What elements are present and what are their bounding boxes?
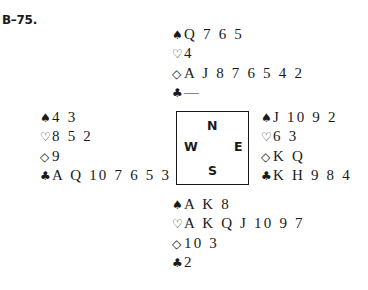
diamond-icon: ◇ [261,148,273,167]
south-hearts: A K Q J 10 9 7 [184,215,305,231]
compass-west: W [184,139,198,154]
south-diamonds: 10 3 [184,235,219,251]
diamond-icon: ◇ [40,148,52,167]
diamond-icon: ◇ [172,235,184,254]
east-clubs: K H 9 8 4 [273,167,352,183]
north-spades: Q 7 6 5 [184,26,244,42]
south-spades: A K 8 [184,196,231,212]
compass-box: N W E S [176,111,249,185]
spade-icon: ♠ [172,26,184,45]
north-hearts: 4 [184,45,194,61]
club-icon: ♣ [172,254,184,273]
south-clubs: 2 [184,254,194,270]
problem-number: B–75. [2,13,37,27]
compass-south: S [208,163,217,178]
north-clubs: — [184,84,201,100]
north-diamonds: A J 8 7 6 5 4 2 [184,65,304,81]
heart-icon: ♡ [40,128,52,147]
heart-icon: ♡ [261,128,273,147]
compass-north: N [207,118,217,133]
east-spades: J 10 9 2 [273,109,338,125]
club-icon: ♣ [261,167,273,186]
diamond-icon: ◇ [172,65,184,84]
east-diamonds: K Q [273,148,305,164]
spade-icon: ♠ [261,109,273,128]
heart-icon: ♡ [172,215,184,234]
west-diamonds: 9 [52,148,62,164]
heart-icon: ♡ [172,45,184,64]
spade-icon: ♠ [40,109,52,128]
west-hearts: 8 5 2 [52,128,93,144]
compass-east: E [234,139,243,154]
club-icon: ♣ [40,167,52,186]
west-spades: 4 3 [52,109,77,125]
club-icon: ♣ [172,84,184,103]
spade-icon: ♠ [172,196,184,215]
west-clubs: A Q 10 7 6 5 3 [52,167,171,183]
east-hearts: 6 3 [273,128,298,144]
